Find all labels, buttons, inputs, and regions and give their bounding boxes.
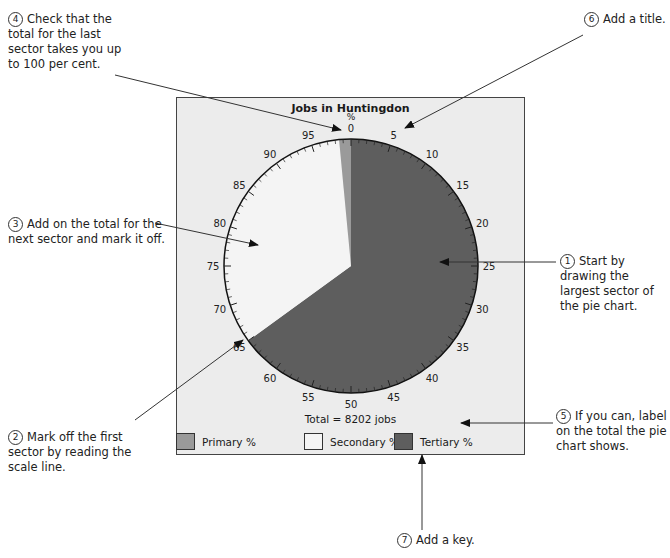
note-line: Add a title. [603,12,666,26]
legend-item-secondary: Secondary % [304,433,399,450]
step-number-icon: 1 [560,254,575,269]
note-add-title: 6Add a title. [584,12,666,27]
note-line: Add a key. [416,533,475,547]
note-line: drawing the [560,269,629,283]
scale-tick [335,388,336,392]
step-number-icon: 7 [397,533,412,548]
note-add-next-sector: 3Add on the total for thenext sector and… [8,217,165,247]
legend-swatch-tertiary [394,433,413,450]
scale-label: 15 [456,180,469,191]
scale-label: 85 [233,180,246,191]
scale-tick [225,281,229,282]
scale-label: 90 [264,149,277,160]
scale-label: 40 [426,373,439,384]
arrow-step2 [135,340,243,420]
scale-label: 20 [476,218,489,229]
step-number-icon: 3 [8,217,23,232]
note-line: Add on the total for the [27,217,162,231]
note-line: on the total the pie [556,424,667,438]
note-add-key: 7Add a key. [397,533,475,548]
step-number-icon: 2 [8,430,23,445]
scale-tick [473,281,477,282]
legend-label-tertiary: Tertiary % [420,436,473,448]
legend-swatch-secondary [304,433,323,450]
step-number-icon: 5 [556,409,571,424]
note-start-largest: 1Start bydrawing thelargest sector ofthe… [560,254,654,314]
note-label-total: 5If you can, labelon the total the piech… [556,409,667,454]
step-number-icon: 4 [8,12,23,27]
note-line: sector takes you up [8,42,121,56]
note-line: sector by reading the [8,445,131,459]
scale-tick [366,388,367,392]
scale-tick [366,140,367,144]
legend-label-secondary: Secondary % [330,436,399,448]
note-line: Start by [579,254,625,268]
scale-tick [225,250,229,251]
note-line: chart shows. [556,439,629,453]
arrow-step4 [115,75,341,130]
scale-label: 95 [302,130,315,141]
scale-label: 65 [233,342,246,353]
note-line: Mark off the first [27,430,123,444]
scale-label: 45 [387,392,400,403]
scale-label: 55 [302,392,315,403]
scale-label: 25 [483,261,496,272]
note-line: next sector and mark it off. [8,232,165,246]
scale-tick [335,140,336,144]
note-line: If you can, label [575,409,667,423]
scale-label: 5 [390,130,396,141]
note-mark-first-sector: 2Mark off the firstsector by reading the… [8,430,131,475]
scale-label: 30 [476,304,489,315]
legend-swatch-primary [176,433,195,450]
legend-label-primary: Primary % [202,436,256,448]
scale-label: 70 [213,304,226,315]
scale-tick [473,250,477,251]
legend-item-primary: Primary % [176,433,256,450]
scale-label: 0 [348,123,354,134]
note-line: total for the last [8,27,101,41]
legend-item-tertiary: Tertiary % [394,433,473,450]
arrow-step6 [405,35,583,128]
legend: Primary % Secondary % Tertiary % [176,433,525,453]
scale-label: 50 [345,399,358,410]
scale-unit-label: % [347,112,356,122]
note-line: scale line. [8,460,66,474]
note-line: the pie chart. [560,299,637,313]
step-number-icon: 6 [584,12,599,27]
scale-label: 10 [426,149,439,160]
scale-label: 75 [207,261,220,272]
scale-label: 35 [456,342,469,353]
note-line: largest sector of [560,284,654,298]
note-line: to 100 per cent. [8,57,100,71]
scale-label: 60 [264,373,277,384]
scale-label: 80 [213,218,226,229]
note-check-total: 4Check that thetotal for the lastsector … [8,12,121,72]
note-line: Check that the [27,12,112,26]
